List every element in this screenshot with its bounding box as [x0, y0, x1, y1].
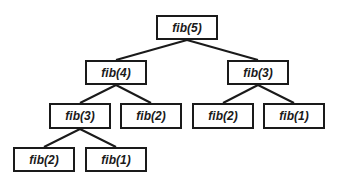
fibonacci-call-tree: fib(5)fib(4)fib(3)fib(3)fib(2)fib(2)fib(… — [0, 0, 338, 188]
tree-node-fib4: fib(4) — [85, 60, 147, 85]
tree-edge — [187, 40, 258, 60]
tree-edge — [80, 129, 116, 147]
tree-node-fib2: fib(2) — [13, 147, 75, 172]
tree-node-fib5: fib(5) — [156, 15, 218, 40]
tree-edge — [116, 40, 187, 60]
tree-edge — [80, 85, 116, 103]
tree-edge — [116, 85, 151, 103]
tree-edge — [44, 129, 80, 147]
tree-node-fib1: fib(1) — [263, 103, 325, 129]
tree-node-fib2: fib(2) — [192, 103, 254, 129]
tree-node-fib3: fib(3) — [227, 60, 289, 85]
tree-edge — [223, 85, 258, 103]
tree-node-fib1: fib(1) — [85, 147, 147, 172]
tree-node-fib3: fib(3) — [49, 103, 111, 129]
tree-node-fib2: fib(2) — [120, 103, 182, 129]
tree-edge — [258, 85, 294, 103]
